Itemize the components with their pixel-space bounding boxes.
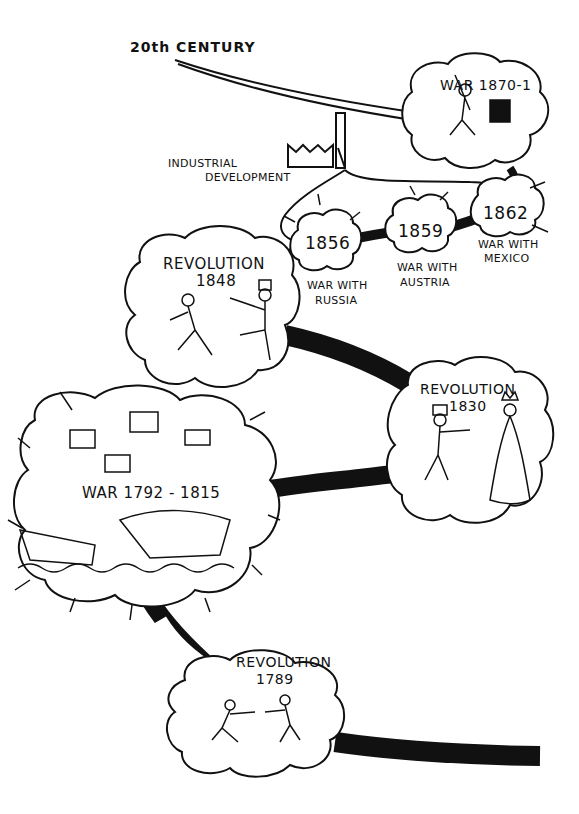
- event-caption-1862-line2: MEXICO: [484, 253, 529, 265]
- industrial-label-line2: DEVELOPMENT: [205, 172, 291, 184]
- industrial-label-line1: INDUSTRIAL: [168, 158, 237, 170]
- event-year-1856: 1856: [305, 235, 350, 253]
- cloud-war-1870: [402, 53, 548, 168]
- event-year-1862: 1862: [483, 205, 528, 223]
- factory-icon: [288, 113, 345, 168]
- event-year-1859: 1859: [398, 223, 443, 241]
- event-caption-1859-line2: AUSTRIA: [400, 277, 450, 289]
- event-year-1830: 1830: [449, 399, 487, 414]
- event-caption-1862-line1: WAR WITH: [478, 239, 538, 251]
- timeline-diagram: [0, 0, 579, 814]
- event-year-1848: 1848: [196, 274, 236, 290]
- event-war-1792: WAR 1792 - 1815: [82, 486, 220, 502]
- event-caption-1856-line1: WAR WITH: [307, 280, 367, 292]
- event-caption-1856-line2: RUSSIA: [315, 295, 357, 307]
- event-caption-1859-line1: WAR WITH: [397, 262, 457, 274]
- event-war-1870: WAR 1870-1: [440, 78, 531, 93]
- event-title-1789: REVOLUTION: [236, 655, 331, 670]
- event-year: 1792 - 1815: [123, 484, 220, 502]
- event-title-1848: REVOLUTION: [163, 257, 265, 273]
- event-year: 1870-1: [479, 77, 532, 93]
- event-title-1830: REVOLUTION: [420, 382, 515, 397]
- title-20th-century: 20th CENTURY: [130, 40, 256, 55]
- cloud-rev-1848: [125, 226, 299, 387]
- event-title: WAR: [82, 484, 118, 502]
- event-year-1789: 1789: [256, 672, 294, 687]
- event-title: WAR: [440, 77, 474, 93]
